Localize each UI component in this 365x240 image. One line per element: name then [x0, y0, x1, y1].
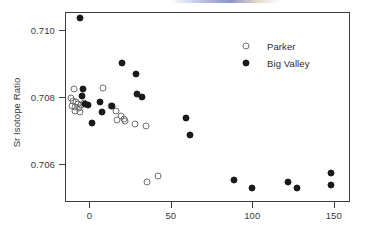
data-point — [285, 178, 292, 185]
data-point — [79, 85, 86, 92]
data-point — [231, 177, 238, 184]
legend: Parker Big Valley — [240, 38, 310, 72]
x-axis-tick — [171, 202, 172, 208]
data-point — [139, 93, 146, 100]
data-point — [182, 115, 189, 122]
data-point — [79, 93, 86, 100]
data-point — [132, 71, 139, 78]
data-point — [100, 85, 107, 92]
data-point — [114, 117, 121, 124]
filled-circle-icon — [240, 55, 258, 72]
data-point — [328, 182, 335, 189]
x-axis-tick — [89, 202, 90, 208]
data-point — [328, 170, 335, 177]
data-point — [77, 15, 84, 22]
data-point — [294, 185, 301, 192]
data-point — [187, 132, 194, 139]
data-point — [132, 121, 139, 128]
data-point — [144, 179, 151, 186]
x-axis-tick — [334, 202, 335, 208]
y-axis-tick-label: 0.710 — [11, 25, 55, 36]
legend-item-label: Big Valley — [258, 58, 310, 69]
open-circle-icon — [240, 38, 258, 55]
x-axis-tick-label: 100 — [232, 210, 272, 221]
y-axis-tick — [59, 30, 65, 31]
data-point — [84, 102, 91, 109]
x-axis-tick-label: 0 — [69, 210, 109, 221]
data-point — [88, 120, 95, 127]
legend-item-big-valley[interactable]: Big Valley — [240, 55, 310, 72]
data-point — [70, 86, 77, 93]
x-axis-tick-label: 150 — [314, 210, 354, 221]
data-point — [109, 103, 116, 110]
y-axis-tick — [59, 164, 65, 165]
data-point — [249, 185, 256, 192]
legend-item-label: Parker — [258, 41, 296, 52]
x-axis-tick-label: 50 — [151, 210, 191, 221]
data-point — [119, 60, 126, 67]
data-point — [122, 118, 129, 125]
data-point — [143, 123, 150, 130]
y-axis-title: Sr Isotope Ratio — [11, 53, 22, 173]
data-point — [98, 108, 105, 115]
scan-artifact — [170, 0, 280, 3]
x-axis-tick — [252, 202, 253, 208]
y-axis-tick — [59, 97, 65, 98]
data-point — [154, 173, 161, 180]
data-point — [76, 109, 83, 116]
scatter-plot-figure: 0.7060.7080.710 050100150 Sr Isotope Rat… — [0, 0, 365, 240]
data-point — [97, 99, 104, 106]
legend-item-parker[interactable]: Parker — [240, 38, 310, 55]
